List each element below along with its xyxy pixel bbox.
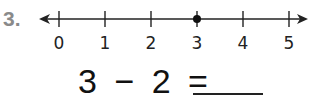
tick-label-5: 5: [279, 33, 299, 53]
marked-point: [193, 15, 201, 23]
equation-equals: =: [188, 62, 208, 101]
equation-left: 3: [78, 62, 97, 101]
tick-label-1: 1: [95, 33, 115, 53]
equation: 3 − 2 =: [78, 62, 208, 101]
answer-blank[interactable]: [193, 93, 263, 95]
tick-label-3: 3: [187, 33, 207, 53]
equation-right: 2: [152, 62, 171, 101]
tick-label-0: 0: [49, 33, 69, 53]
tick-label-2: 2: [141, 33, 161, 53]
tick-label-4: 4: [233, 33, 253, 53]
equation-operator: −: [114, 62, 134, 101]
